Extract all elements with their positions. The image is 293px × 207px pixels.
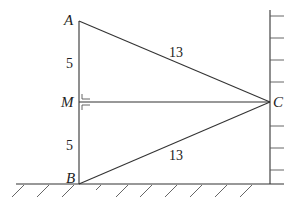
ground-hatching [12, 185, 252, 197]
label-b: B [66, 170, 75, 186]
length-ac: 13 [169, 45, 183, 60]
length-mb: 5 [66, 138, 73, 153]
label-c: C [273, 94, 284, 110]
label-m: M [60, 94, 75, 110]
wall-ticks [270, 16, 284, 170]
length-bc: 13 [169, 148, 183, 163]
label-a: A [63, 12, 74, 28]
segment-bc [79, 102, 270, 184]
length-am: 5 [66, 56, 73, 71]
diagram-canvas: A M B C 5 5 13 13 [0, 0, 293, 207]
segment-ac [79, 21, 270, 102]
